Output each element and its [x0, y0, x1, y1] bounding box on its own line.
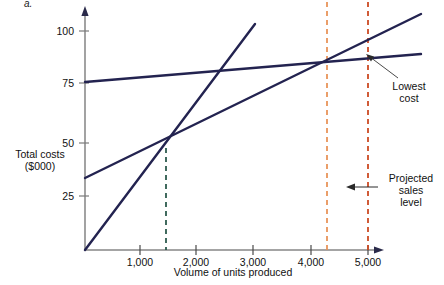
- callouts-group: [346, 54, 398, 191]
- annotation-projected-line3: level: [380, 196, 442, 208]
- lowest-cost-leader: [370, 57, 398, 78]
- y-tick-label-100: 100: [40, 25, 74, 37]
- annotation-projected-line1: Projected: [380, 172, 442, 184]
- y-axis-arrowhead: [81, 6, 88, 16]
- annotation-lowest-cost-line2: cost: [378, 92, 440, 104]
- vertical-markers-group: [166, 2, 368, 250]
- y-tick-label-25: 25: [40, 190, 74, 202]
- y-tick-label-75: 75: [40, 77, 74, 89]
- x-axis-title: Volume of units produced: [148, 266, 318, 278]
- annotation-lowest-cost: Lowest cost: [378, 80, 440, 104]
- figure-root: a.: [0, 0, 444, 285]
- x-tick-label-5000: 5,000: [348, 256, 388, 268]
- cost-line-medium-fixed: [85, 14, 421, 178]
- x-axis-arrowhead: [374, 247, 384, 254]
- y-axis-title-line1: Total costs: [4, 148, 76, 160]
- annotation-projected-line2: sales: [380, 184, 442, 196]
- y-axis-title: Total costs ($000): [4, 148, 76, 172]
- axes-group: [79, 6, 384, 255]
- cost-line-variable-only: [85, 24, 255, 250]
- projected-arrowhead: [346, 184, 355, 191]
- annotation-lowest-cost-line1: Lowest: [378, 80, 440, 92]
- annotation-projected-sales-level: Projected sales level: [380, 172, 442, 208]
- cost-lines-group: [85, 14, 421, 250]
- y-axis-title-line2: ($000): [4, 160, 76, 172]
